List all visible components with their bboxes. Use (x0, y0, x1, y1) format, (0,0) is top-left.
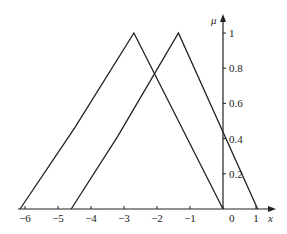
series-line-membership-2 (71, 33, 257, 209)
x-tick-label: −2 (151, 212, 163, 224)
y-tick-label: 0.4 (229, 133, 243, 145)
x-tick-label: −6 (19, 212, 31, 224)
y-tick-label: 1 (229, 27, 235, 39)
y-axis-arrow-icon (220, 14, 226, 22)
series-line-membership-1 (20, 33, 223, 209)
x-tick-label: −4 (85, 212, 97, 224)
origin-label: 0 (229, 212, 235, 224)
y-tick-label: 0.6 (229, 97, 243, 109)
plot-area: −6−5−4−3−2−110x0.20.40.60.81μ (0, 0, 287, 234)
x-tick-label: −1 (184, 212, 196, 224)
x-tick-label: 1 (253, 212, 259, 224)
y-tick-label: 0.8 (229, 62, 243, 74)
x-tick-label: −3 (118, 212, 130, 224)
chart: −6−5−4−3−2−110x0.20.40.60.81μ (0, 0, 287, 234)
x-axis-label: x (267, 212, 273, 224)
y-tick-label: 0.2 (229, 168, 243, 180)
x-tick-label: −5 (52, 212, 64, 224)
y-axis-label: μ (210, 14, 217, 26)
